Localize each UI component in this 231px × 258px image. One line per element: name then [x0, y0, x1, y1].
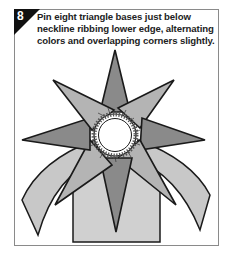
neck-opening [99, 119, 132, 152]
step-number: 8 [17, 10, 24, 23]
step-instruction: Pin eight triangle bases just below neck… [37, 11, 219, 47]
